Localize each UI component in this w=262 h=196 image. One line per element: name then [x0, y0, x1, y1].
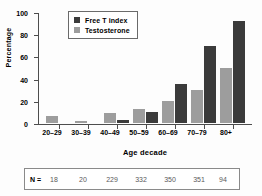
legend-item-free-t-index: Free T index [74, 15, 130, 25]
bar-testosterone-80-plus [220, 68, 232, 124]
bar-testosterone-30-39 [75, 121, 87, 123]
bar-free-t-index-80-plus [233, 21, 245, 123]
x-axis-title: Age decade [38, 148, 252, 157]
sample-size-80-plus: 94 [208, 176, 238, 183]
bar-free-t-index-60-69 [175, 84, 187, 123]
bar-free-t-index-50-59 [146, 112, 158, 123]
y-axis-line [38, 13, 39, 125]
legend-item-testosterone: Testosterone [74, 25, 130, 35]
bar-testosterone-60-69 [162, 101, 174, 123]
y-tick-60: 60 [34, 57, 38, 58]
sample-size-30-39: 20 [68, 176, 98, 183]
legend-swatch-free-t-index [74, 17, 80, 23]
bar-testosterone-50-59 [133, 109, 145, 123]
bar-testosterone-70-79 [191, 90, 203, 123]
bar-free-t-index-40-49 [117, 120, 129, 123]
y-tick-40: 40 [34, 80, 38, 81]
legend-label-free-t-index: Free T index [85, 17, 127, 24]
x-axis-line [38, 124, 252, 125]
y-tick-0: 0 [34, 124, 38, 125]
sample-size-60-69: 350 [155, 176, 185, 183]
chart-legend: Free T index Testosterone [68, 11, 138, 39]
bar-testosterone-40-49 [104, 113, 116, 123]
y-axis-title: Percentage [5, 18, 12, 78]
sample-size-40-49: 229 [97, 176, 127, 183]
legend-label-testosterone: Testosterone [85, 27, 130, 34]
y-tick-20: 20 [34, 102, 38, 103]
bar-free-t-index-70-79 [204, 46, 216, 123]
sample-size-20-29: 18 [39, 176, 69, 183]
table-row: N = 18 20 229 332 350 351 94 [25, 169, 239, 189]
sample-size-table: N = 18 20 229 332 350 351 94 [24, 168, 240, 190]
legend-swatch-testosterone [74, 27, 80, 33]
chart-figure: Percentage 0 20 40 60 80 100 [0, 0, 262, 196]
bar-testosterone-20-29 [46, 116, 58, 123]
x-tick-label-80-plus: 80+ [206, 129, 246, 136]
y-tick-80: 80 [34, 35, 38, 36]
sample-size-50-59: 332 [126, 176, 156, 183]
y-tick-100: 100 [34, 13, 38, 14]
